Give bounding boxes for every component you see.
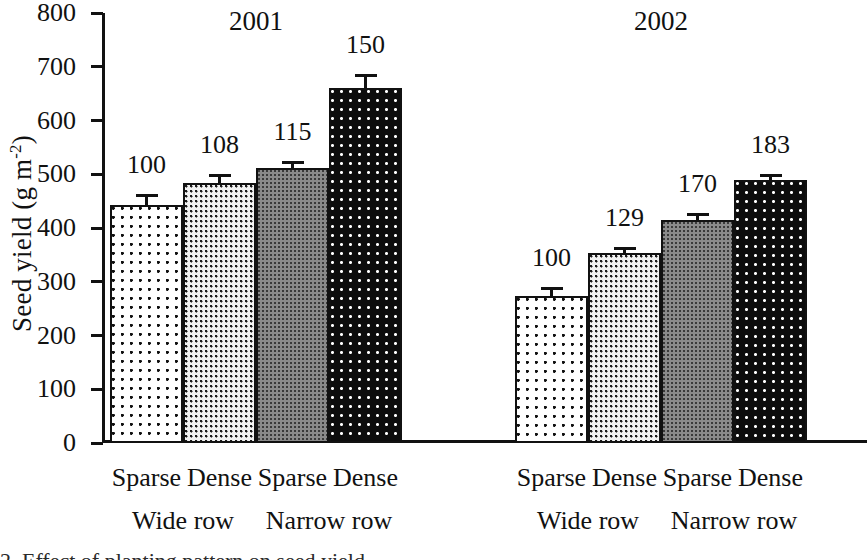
error-bar-cap <box>687 213 709 216</box>
bar-2001-narrow-row-dense <box>329 88 402 443</box>
error-bar-cap <box>760 174 782 177</box>
group-year-label: 2002 <box>591 8 731 35</box>
y-axis-tick <box>91 334 103 337</box>
error-bar-cap <box>136 194 158 197</box>
y-axis-tick-label: 700 <box>4 54 76 80</box>
error-bar-cap <box>614 247 636 250</box>
bar-value-label: 150 <box>326 32 406 58</box>
y-axis-tick-label: 500 <box>4 161 76 187</box>
y-axis-tick-label: 600 <box>4 108 76 134</box>
y-axis-tick-label: 100 <box>4 376 76 402</box>
x-axis-category-label: Dense <box>706 465 836 491</box>
y-axis-tick-labels: 0100200300400500600700800 <box>0 0 76 560</box>
y-axis-tick-label: 400 <box>4 215 76 241</box>
error-bar-cap <box>209 174 231 177</box>
y-axis-tick-label: 200 <box>4 323 76 349</box>
bar-2002-narrow-row-sparse <box>661 220 734 443</box>
y-axis-tick <box>91 227 103 230</box>
bar-value-label: 108 <box>180 132 260 158</box>
bar-value-label: 183 <box>731 132 811 158</box>
bar-value-label: 170 <box>658 171 738 197</box>
x-axis-group-label: Narrow row <box>229 508 429 534</box>
plot-area <box>102 13 867 443</box>
y-axis-tick <box>91 388 103 391</box>
y-axis-tick <box>91 442 103 445</box>
bar-value-label: 100 <box>107 152 187 178</box>
bar-2001-wide-row-dense <box>183 183 256 443</box>
bar-2002-wide-row-dense <box>588 253 661 443</box>
y-axis-tick <box>91 119 103 122</box>
y-axis-tick <box>91 12 103 15</box>
y-axis-tick-label: 800 <box>4 0 76 26</box>
y-axis-tick <box>91 65 103 68</box>
error-bar-cap <box>282 161 304 164</box>
y-axis-tick <box>91 280 103 283</box>
bar-value-label: 100 <box>512 245 592 271</box>
bar-2002-wide-row-sparse <box>515 296 588 443</box>
bar-2001-narrow-row-sparse <box>256 168 329 443</box>
error-bar-cap <box>541 287 563 290</box>
y-axis-tick-label: 0 <box>4 430 76 456</box>
bar-2001-wide-row-sparse <box>110 205 183 443</box>
error-bar-cap <box>355 74 377 77</box>
bar-2002-narrow-row-dense <box>734 180 807 443</box>
group-year-label: 2001 <box>186 8 326 35</box>
figure-caption: 2. Effect of planting pattern on seed yi… <box>0 548 867 560</box>
figure-bar-chart: Seed yield (g m-2) 010020030040050060070… <box>0 0 867 560</box>
y-axis-tick <box>91 173 103 176</box>
bar-value-label: 129 <box>585 205 665 231</box>
x-axis-category-label: Dense <box>301 465 431 491</box>
y-axis-tick-label: 300 <box>4 269 76 295</box>
bar-value-label: 115 <box>253 119 333 145</box>
x-axis-group-label: Narrow row <box>634 508 834 534</box>
